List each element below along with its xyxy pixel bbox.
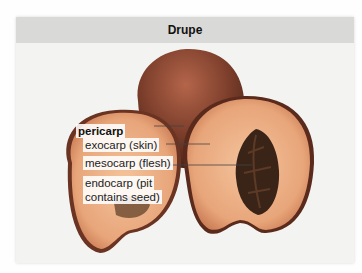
figure-title: Drupe bbox=[168, 23, 203, 37]
label-exocarp: exocarp (skin) bbox=[83, 138, 159, 152]
drupe-figure-panel: Drupe pericarp bbox=[16, 17, 354, 263]
label-endocarp-line2: contains seed) bbox=[83, 190, 162, 204]
label-endocarp-line1: endocarp (pit bbox=[83, 176, 154, 190]
label-mesocarp: mesocarp (flesh) bbox=[83, 156, 173, 170]
label-pericarp: pericarp bbox=[76, 124, 125, 138]
figure-title-bar: Drupe bbox=[16, 17, 354, 43]
peach-illustration bbox=[16, 43, 354, 263]
